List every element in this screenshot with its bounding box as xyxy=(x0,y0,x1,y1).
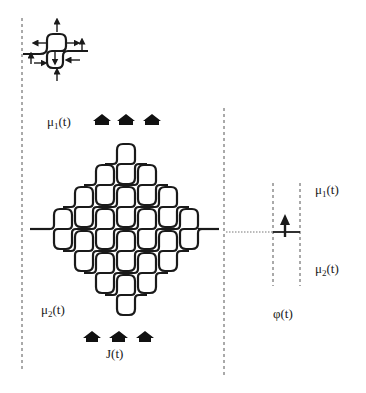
junction-lattice xyxy=(30,144,219,315)
current-label: J(t) xyxy=(106,347,123,360)
up-arrow-icon xyxy=(117,114,135,125)
bottom-arrows xyxy=(83,331,154,342)
top-arrows xyxy=(93,114,161,125)
mu2-right-label: μ2(t) xyxy=(315,262,339,278)
up-arrow-icon xyxy=(136,331,154,342)
up-arrow-icon xyxy=(93,114,111,125)
diagram-canvas xyxy=(0,0,366,393)
mu2-left-label: μ2(t) xyxy=(41,303,65,319)
mu1-top-label: μ1(t) xyxy=(47,115,71,131)
phase-label: φ(t) xyxy=(273,307,293,320)
cell-icon xyxy=(23,21,88,81)
up-arrow-icon xyxy=(143,114,161,125)
up-arrow-icon xyxy=(83,331,101,342)
up-arrow-icon xyxy=(109,331,128,342)
mu1-right-label: μ1(t) xyxy=(315,183,339,199)
phase-element xyxy=(226,183,300,286)
